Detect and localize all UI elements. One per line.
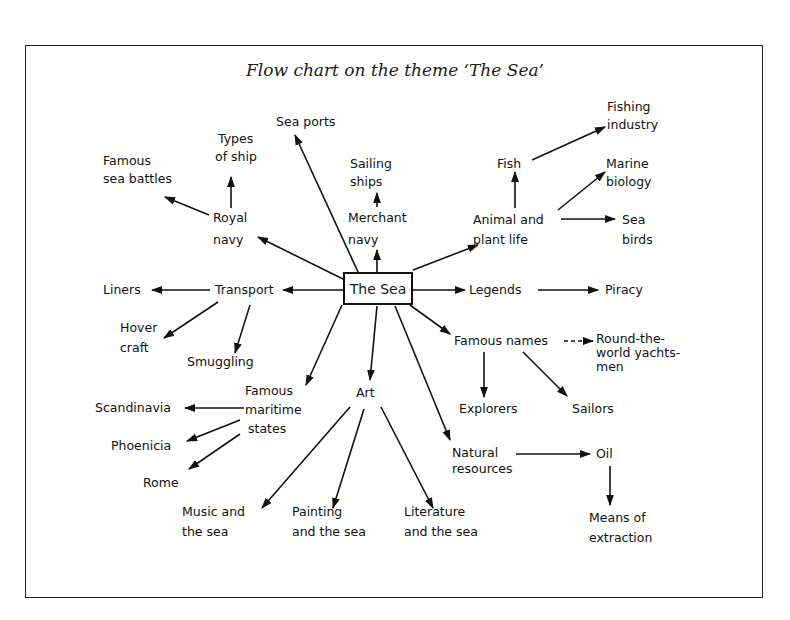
node-line: Sea	[622, 210, 653, 230]
node-merchant-navy: Merchant navy	[348, 207, 407, 251]
edge-fish-fishing	[532, 127, 605, 160]
node-animal-plant-life: Animal and plant life	[473, 210, 544, 250]
node-line: extraction	[589, 528, 652, 548]
edge-maritime-rome	[189, 434, 240, 469]
node-fishing-industry: Fishing industry	[607, 98, 658, 134]
node-legends: Legends	[469, 281, 521, 299]
node-literature-and-the-sea: Literature and the sea	[404, 502, 478, 542]
node-sailors: Sailors	[572, 400, 614, 418]
node-line: plant life	[473, 230, 544, 250]
node-line: Famous	[103, 152, 172, 170]
node-fish: Fish	[497, 155, 521, 173]
edge-sea-seaports	[295, 135, 358, 272]
node-line: and the sea	[404, 522, 478, 542]
node-line: maritime	[245, 400, 302, 419]
edge-sea-famousnames	[410, 305, 450, 334]
node-line: Types	[215, 130, 257, 148]
edge-maritime-phoenicia	[187, 420, 240, 441]
node-famous-names: Famous names	[454, 332, 548, 350]
node-line: Marine	[606, 155, 652, 173]
node-sailing-ships: Sailing ships	[350, 155, 392, 191]
node-sea-birds: Sea birds	[622, 210, 653, 250]
edge-art-literature	[381, 407, 433, 508]
node-line: world yachts-	[596, 346, 680, 360]
node-royal-navy: Royal navy	[213, 207, 247, 251]
edge-transport-hover	[164, 302, 218, 338]
node-line: the sea	[182, 522, 245, 542]
node-line: men	[596, 360, 680, 374]
node-transport: Transport	[215, 281, 274, 299]
edge-sea-royalnavy	[258, 237, 345, 280]
node-piracy: Piracy	[605, 281, 643, 299]
edge-transport-smuggling	[235, 305, 250, 353]
edge-famous-sailors	[523, 352, 567, 396]
edge-royal-battles	[165, 197, 209, 215]
node-line: Royal	[213, 207, 247, 229]
node-line: Merchant	[348, 207, 407, 229]
node-means-of-extraction: Means of extraction	[589, 508, 652, 548]
connector-lines	[0, 0, 790, 620]
node-line: resources	[452, 461, 513, 477]
node-line: ships	[350, 173, 392, 191]
edge-sea-natural	[395, 306, 450, 440]
edge-sea-animal	[413, 245, 478, 270]
node-line: Means of	[589, 508, 652, 528]
node-line: Music and	[182, 502, 245, 522]
node-explorers: Explorers	[459, 400, 518, 418]
node-line: industry	[607, 116, 658, 134]
node-line: Sailing	[350, 155, 392, 173]
node-types-of-ship: Types of ship	[215, 130, 257, 166]
node-smuggling: Smuggling	[187, 353, 254, 371]
central-node-the-sea: The Sea	[343, 272, 413, 305]
edge-art-painting	[333, 409, 364, 508]
edge-sea-art	[370, 306, 377, 380]
node-line: Hover	[120, 318, 157, 338]
node-famous-sea-battles: Famous sea battles	[103, 152, 172, 188]
node-phoenicia: Phoenicia	[111, 437, 171, 455]
node-sea-ports: Sea ports	[276, 113, 335, 131]
node-line: Natural	[452, 445, 513, 461]
node-natural-resources: Natural resources	[452, 445, 513, 477]
node-line: Literature	[404, 502, 478, 522]
node-line: states	[245, 419, 302, 438]
node-line: navy	[348, 229, 407, 251]
node-line: navy	[213, 229, 247, 251]
node-line: Fishing	[607, 98, 658, 116]
node-liners: Liners	[103, 281, 141, 299]
node-hover-craft: Hover craft	[120, 318, 157, 358]
node-oil: Oil	[596, 445, 613, 463]
node-music-and-the-sea: Music and the sea	[182, 502, 245, 542]
node-painting-and-the-sea: Painting and the sea	[292, 502, 366, 542]
node-line: biology	[606, 173, 652, 191]
node-art: Art	[356, 384, 375, 402]
node-line: Famous	[245, 381, 302, 400]
node-scandinavia: Scandinavia	[95, 399, 171, 417]
node-line: sea battles	[103, 170, 172, 188]
node-line: Animal and	[473, 210, 544, 230]
node-marine-biology: Marine biology	[606, 155, 652, 191]
node-line: birds	[622, 230, 653, 250]
node-line: Painting	[292, 502, 366, 522]
node-line: of ship	[215, 148, 257, 166]
edge-animal-marine	[558, 172, 605, 210]
edge-sea-maritime	[306, 305, 342, 385]
node-line: Round-the-	[596, 332, 680, 346]
node-round-the-world-yachtsmen: Round-the- world yachts- men	[596, 332, 680, 374]
node-famous-maritime-states: Famous maritime states	[245, 381, 302, 438]
node-line: and the sea	[292, 522, 366, 542]
node-line: craft	[120, 338, 157, 358]
node-rome: Rome	[143, 474, 179, 492]
